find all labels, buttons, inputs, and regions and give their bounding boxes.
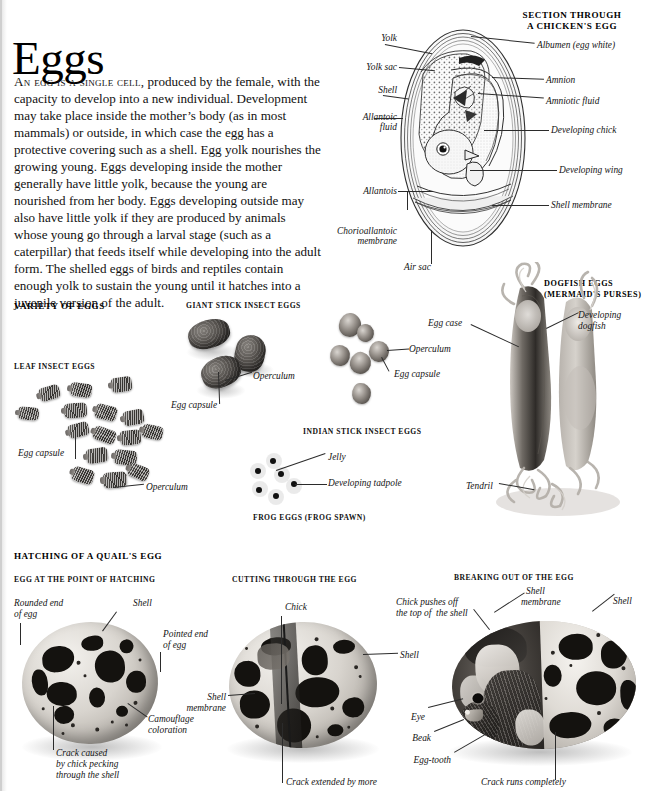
label-chorioallantoic-line1: Chorioallantoic [322, 226, 397, 237]
label-egg-case: Egg case [428, 318, 462, 329]
leaf-insect-eggs-heading: LEAF INSECT EGGS [14, 362, 95, 372]
label-tendril: Tendril [466, 481, 493, 492]
stage2-heading: CUTTING THROUGH THE EGG [232, 575, 357, 585]
label-allantois: Allantois [335, 186, 397, 197]
label-developing-dogfish-line2: dogfish [578, 321, 606, 332]
stage3-heading: BREAKING OUT OF THE EGG [454, 573, 574, 583]
label-stage2-chick: Chick [285, 602, 307, 613]
hatching-section-heading: HATCHING OF A QUAIL'S EGG [14, 551, 162, 562]
stage2-quail-egg [226, 618, 380, 752]
label-frog-jelly: Jelly [328, 452, 346, 463]
encyclopedia-page: Eggs An egg is a single cell, produced b… [0, 0, 645, 791]
label-developing-wing: Developing wing [559, 165, 623, 176]
label-rounded-end-line2: of egg [14, 609, 37, 620]
label-yolk: Yolk [353, 33, 397, 44]
leader-developing-chick [484, 130, 549, 131]
intro-leadin: An egg is a single cell, [14, 74, 144, 89]
label-stage1-shell: Shell [133, 598, 152, 609]
label-camouflage-line1: Camouflage [148, 714, 194, 725]
label-shell: Shell [344, 85, 397, 96]
stage1-heading: EGG AT THE POINT OF HATCHING [14, 575, 156, 585]
label-stage3-shell-membrane-line2: membrane [521, 597, 561, 608]
label-indian-egg-capsule: Egg capsule [394, 369, 440, 380]
leader-stage3-shell-membrane [494, 592, 525, 612]
label-stage2-shell-membrane-line2: membrane [172, 703, 226, 714]
label-stage1-crack-line2: by chick pecking [56, 759, 118, 770]
label-stage3-beak: Beak [389, 733, 431, 744]
label-stage1-crack-line3: through the shell [56, 770, 119, 781]
leader-stage3-crack [555, 732, 556, 780]
leader-stage3-shell [592, 594, 614, 612]
indian-stick-insect-eggs-heading: INDIAN STICK INSECT EGGS [303, 427, 421, 437]
label-developing-dogfish-line1: Developing [578, 310, 621, 321]
stage3-quail-egg [450, 618, 638, 752]
label-rounded-end-line1: Rounded end [14, 598, 63, 609]
chicken-egg-diagram [393, 26, 533, 251]
leader-stage1-crack [53, 706, 54, 750]
leader-allantois [398, 191, 433, 192]
leader-pointed-end [160, 652, 161, 672]
label-stage3-eye: Eye [389, 712, 425, 723]
label-shell-membrane-chicken: Shell membrane [551, 200, 612, 211]
dogfish-egg-purses-specimen [470, 262, 645, 520]
label-leaf-egg-capsule: Egg capsule [18, 448, 64, 459]
label-stage3-shell: Shell [613, 596, 632, 607]
leader-indian-operculum [387, 348, 409, 350]
leader-developing-tadpole [295, 484, 327, 485]
label-albumen: Albumen (egg white) [537, 40, 615, 51]
leader-stage2-crack [282, 723, 283, 783]
label-pointed-end-line1: Pointed end [163, 629, 208, 640]
label-leaf-operculum: Operculum [146, 482, 188, 493]
label-amniotic-fluid: Amniotic fluid [546, 96, 599, 107]
label-air-sac: Air sac [404, 262, 431, 273]
label-egg-tooth: Egg-tooth [389, 755, 451, 766]
leader-stage2-chick [281, 616, 282, 704]
label-stage2-crack: Crack extended by more [286, 777, 377, 788]
label-allantoic-fluid-line2: fluid [334, 122, 397, 133]
label-stage3-shell-membrane-line1: Shell [526, 586, 545, 597]
label-developing-chick: Developing chick [551, 125, 616, 136]
intro-paragraph: An egg is a single cell, produced by the… [14, 73, 321, 311]
leader-stage2-shell [363, 653, 398, 655]
label-amnion: Amnion [546, 75, 575, 86]
label-giant-egg-capsule: Egg capsule [171, 400, 217, 411]
label-camouflage-line2: coloration [148, 725, 187, 736]
leader-air-sac [431, 230, 432, 264]
leader-frog-jelly [276, 453, 325, 471]
leader-shell-membrane-chicken [492, 205, 549, 206]
label-giant-operculum: Operculum [253, 371, 295, 382]
label-stage1-crack-line1: Crack caused [56, 748, 107, 759]
giant-stick-insect-eggs-heading: GIANT STICK INSECT EGGS [186, 301, 301, 311]
leader-developing-wing [470, 170, 557, 171]
leader-leaf-egg-capsule [75, 427, 76, 459]
label-pointed-end-line2: of egg [163, 640, 186, 651]
leader-allantoic-fluid [374, 118, 403, 119]
intro-body: produced by the female, with the capacit… [14, 74, 321, 310]
label-stage2-shell-membrane-line1: Shell [178, 692, 226, 703]
label-indian-operculum: Operculum [409, 344, 451, 355]
label-chick-pushes-line1: Chick pushes off [396, 597, 458, 608]
label-yolk-sac: Yolk sac [338, 62, 397, 73]
leader-rounded-end [20, 623, 21, 645]
stage1-quail-egg [18, 617, 162, 748]
label-stage2-shell: Shell [400, 650, 419, 661]
page-gutter-edge [0, 0, 2, 791]
frog-eggs-heading: FROG EGGS (FROG SPAWN) [253, 513, 366, 523]
label-stage3-crack: Crack runs completely [481, 777, 566, 788]
label-developing-tadpole: Developing tadpole [328, 478, 402, 489]
leader-allantois-tick [407, 191, 408, 210]
label-chick-pushes-line2: the top of the shell [396, 608, 468, 619]
label-chorioallantoic-line2: membrane [322, 236, 397, 247]
variety-of-eggs-heading: VARIETY OF EGGS [14, 301, 105, 312]
